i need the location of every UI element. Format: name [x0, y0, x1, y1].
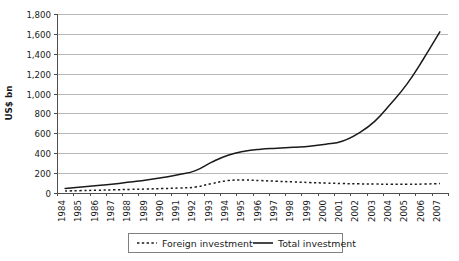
x-tick-label: 1991 [171, 200, 181, 222]
legend-label-total-investment: Total investment [277, 238, 356, 249]
legend-label-foreign-investment: Foreign investment [162, 238, 253, 249]
x-tick-label: 2001 [334, 200, 344, 222]
x-tick-label: 1985 [73, 200, 83, 222]
y-tick-label: 1,600 [26, 30, 51, 40]
x-tick-label: 2007 [432, 200, 442, 222]
y-tick-label: 1,200 [26, 70, 51, 80]
x-tick-label: 1987 [106, 200, 116, 222]
investment-line-chart: 02004006008001,0001,2001,4001,6001,800 1… [0, 0, 459, 261]
x-tick-label: 1993 [204, 200, 214, 222]
y-tick-label: 200 [35, 169, 51, 179]
x-tick-label: 1997 [269, 200, 279, 222]
chart-legend: Foreign investment Total investment [129, 234, 357, 253]
x-tick-label: 2005 [399, 200, 409, 222]
x-tick-label: 1999 [302, 200, 312, 222]
x-tick-label: 1984 [57, 200, 67, 222]
x-tick-label: 1998 [285, 200, 295, 222]
x-tick-label: 1986 [90, 200, 100, 222]
x-tick-label: 2002 [350, 200, 360, 222]
x-tick-label: 1996 [253, 200, 263, 222]
x-tick-label: 1989 [139, 200, 149, 222]
x-tick-label: 1992 [187, 200, 197, 222]
y-tick-label: 1,800 [26, 10, 51, 20]
x-tick-label: 1994 [220, 200, 230, 222]
y-tick-label: 1,000 [26, 90, 51, 100]
y-tick-label: 0 [46, 189, 51, 199]
x-tick-label: 2004 [383, 200, 393, 222]
y-tick-label: 400 [35, 149, 51, 159]
x-tick-label: 1988 [122, 200, 132, 222]
y-tick-label: 800 [35, 109, 51, 119]
x-tick-label: 2003 [367, 200, 377, 222]
y-axis-title: US$ bn [4, 85, 14, 120]
x-tick-label: 2006 [416, 200, 426, 222]
y-tick-label: 1,400 [26, 50, 51, 60]
y-tick-label: 600 [35, 129, 51, 139]
x-tick-label: 1995 [236, 200, 246, 222]
x-tick-label: 2000 [318, 200, 328, 222]
x-tick-label: 1990 [155, 200, 165, 222]
chart-figure: 02004006008001,0001,2001,4001,6001,800 1… [0, 0, 459, 261]
